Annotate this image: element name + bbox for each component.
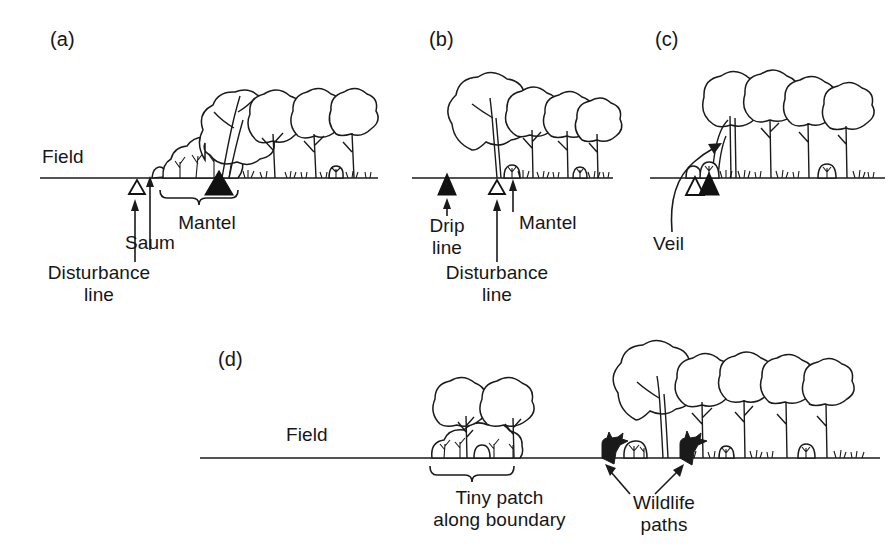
panel-a-letter: (a) xyxy=(50,28,75,50)
panel-c-letter: (c) xyxy=(655,28,679,50)
tree-trunk-d3 xyxy=(735,400,753,458)
field-label-top: Field xyxy=(42,146,84,167)
disturbance-label-b-line1: Disturbance xyxy=(416,262,578,283)
forest-edge-figure: (a) (b) (c) (d) Field Field Mantel Saum … xyxy=(0,0,888,557)
mantel-label-b: Mantel xyxy=(519,212,577,233)
panel-a-drawing xyxy=(40,88,378,262)
tiny-patch-brace-d xyxy=(430,466,514,482)
field-label-bottom: Field xyxy=(286,424,328,445)
veil-label-c: Veil xyxy=(653,233,684,254)
grass-tufts-d xyxy=(684,450,864,458)
tree-canopy-d5 xyxy=(802,358,854,405)
drip-label-b-line1: Drip xyxy=(409,215,485,236)
disturbance-arrowhead-a xyxy=(131,199,139,211)
panel-b-letter: (b) xyxy=(429,28,454,50)
grass-tufts-b xyxy=(518,170,609,178)
wildlife-label-line1: Wildlife xyxy=(608,492,720,513)
wildlife-label-line2: paths xyxy=(608,514,720,535)
disturbance-label-a-line1: Disturbance xyxy=(18,262,180,283)
wildlife-arrow-2-d xyxy=(655,472,677,494)
tree-canopy-c4 xyxy=(822,82,874,129)
veil-arrowhead-c xyxy=(708,143,722,154)
mantel-label-a: Mantel xyxy=(162,212,252,233)
disturbance-label-a-line2: line xyxy=(18,284,180,305)
tree-trunk-a3 xyxy=(304,134,324,178)
disturbance-marker-a xyxy=(129,180,145,194)
disturbance-arrowhead-b xyxy=(493,199,501,211)
saum-label-a: Saum xyxy=(115,232,185,253)
interior-trees-a xyxy=(248,88,378,178)
tree-trunk-d5 xyxy=(817,404,827,458)
panel-c-drawing xyxy=(650,70,885,232)
tiny-patch-tree2-d xyxy=(480,377,534,426)
interior-trees-b xyxy=(506,87,622,178)
tree-trunk-d4 xyxy=(777,402,787,458)
panel-d-letter: (d) xyxy=(218,348,243,370)
wildlife-arrow-1-d xyxy=(611,472,630,494)
panel-d-drawing xyxy=(200,340,880,494)
wildlife-arrowhead-1-d xyxy=(605,464,616,476)
tree-trunk-c1 xyxy=(730,116,731,178)
tree-canopy-b4 xyxy=(575,98,621,142)
disturbance-label-b-line2: line xyxy=(416,284,578,305)
drip-arrowhead-b xyxy=(443,198,451,209)
drip-label-b-line2: line xyxy=(409,237,485,258)
tree-trunk-c4 xyxy=(838,126,847,178)
tree-trunk-c1b xyxy=(735,118,736,178)
tree-trunk-c3 xyxy=(799,123,809,178)
tree-trunk-c2 xyxy=(761,120,779,178)
wildlife-animal-1 xyxy=(602,432,628,464)
tree-canopy-a4 xyxy=(329,88,378,135)
mantel-arrowhead-b xyxy=(509,179,517,191)
grass-tufts-c xyxy=(720,170,874,178)
interior-trees-c xyxy=(703,70,874,178)
tree-trunk-b2 xyxy=(523,130,541,178)
tiny-patch-label-line2: along boundary xyxy=(412,509,587,530)
tiny-patch-tree1-d xyxy=(433,377,487,426)
grass-tufts-a xyxy=(243,170,371,178)
tree-trunk-a4 xyxy=(343,133,354,178)
tiny-patch-inner-shrub-d xyxy=(474,445,490,458)
disturbance-marker-b xyxy=(489,180,505,194)
tiny-patch-label-line1: Tiny patch xyxy=(412,487,587,508)
